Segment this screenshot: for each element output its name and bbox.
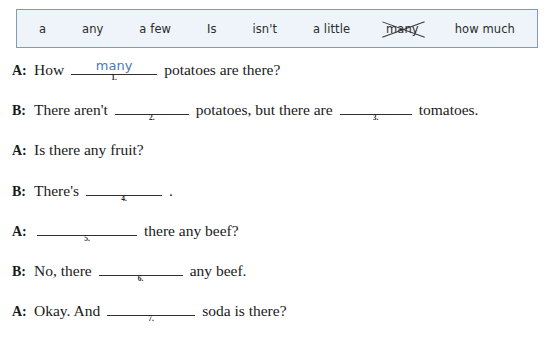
line-text-after: .	[165, 182, 173, 200]
blank-number: 6.	[99, 274, 183, 283]
word-bank-label: a few	[139, 22, 171, 36]
line-text-before: Okay. And	[34, 302, 104, 320]
line-text-after: there any beef?	[140, 222, 239, 240]
word-bank-label: a little	[313, 22, 350, 36]
word-bank-item-many[interactable]: many	[386, 22, 419, 36]
speaker-label: B:	[12, 264, 34, 280]
line-text-after: soda is there?	[198, 302, 286, 320]
handwritten-answer: many	[71, 58, 157, 73]
line-text-after: potatoes are there?	[160, 61, 280, 79]
word-bank-item-isnt[interactable]: isn't	[252, 22, 277, 36]
answer-blank-6[interactable]: 6.	[99, 261, 183, 276]
speaker-label: A:	[12, 304, 34, 320]
answer-blank-5[interactable]: 5.	[37, 221, 137, 236]
answer-blank-4[interactable]: 4.	[86, 181, 162, 196]
dialogue-line-5: A: 5. there any beef?	[12, 221, 548, 240]
blank-number: 7.	[107, 314, 195, 323]
word-bank-label: Is	[207, 22, 217, 36]
answer-blank-2[interactable]: 2.	[115, 100, 189, 115]
line-text-before: There's	[34, 182, 83, 200]
line-text-before: Is there any fruit?	[34, 141, 148, 159]
word-bank-label: any	[82, 22, 103, 36]
answer-blank-1[interactable]: many 1.	[71, 60, 157, 75]
speaker-label: A:	[12, 143, 34, 159]
word-bank-label: isn't	[252, 22, 277, 36]
speaker-label: B:	[12, 184, 34, 200]
blank-number: 2.	[115, 113, 189, 122]
word-bank-item-a-few[interactable]: a few	[139, 22, 171, 36]
dialogue-line-7: A: Okay. And 7. soda is there?	[12, 301, 548, 320]
answer-blank-7[interactable]: 7.	[107, 301, 195, 316]
word-bank-item-a[interactable]: a	[39, 22, 46, 36]
line-text-before: There aren't	[34, 101, 112, 119]
dialogue-line-6: B: No, there 6. any beef.	[12, 261, 548, 280]
dialogue-line-2: B: There aren't 2. potatoes, but there a…	[12, 100, 548, 119]
speaker-label: B:	[12, 103, 34, 119]
word-bank-label: how much	[455, 22, 515, 36]
line-text-before: No, there	[34, 262, 96, 280]
word-bank-item-a-little[interactable]: a little	[313, 22, 350, 36]
blank-number: 5.	[37, 234, 137, 243]
line-text-after: tomatoes.	[415, 101, 479, 119]
word-bank-box: a any a few Is isn't a little many how m…	[16, 9, 538, 48]
word-bank-label: a	[39, 22, 46, 36]
speaker-label: A:	[12, 224, 34, 240]
word-bank-item-is[interactable]: Is	[207, 22, 217, 36]
speaker-label: A:	[12, 63, 34, 79]
line-text-after: any beef.	[186, 262, 247, 280]
dialogue-line-1: A: How many 1. potatoes are there?	[12, 60, 548, 79]
answer-blank-3[interactable]: 3.	[340, 100, 412, 115]
blank-number: 1.	[71, 73, 157, 82]
line-text-before: How	[34, 61, 68, 79]
blank-number: 3.	[340, 113, 412, 122]
word-bank-item-any[interactable]: any	[82, 22, 103, 36]
dialogue-line-4: B: There's 4. .	[12, 181, 548, 200]
line-text-middle: potatoes, but there are	[192, 101, 337, 119]
blank-number: 4.	[86, 194, 162, 203]
word-bank-item-how-much[interactable]: how much	[455, 22, 515, 36]
dialogue-line-3: A: Is there any fruit?	[12, 141, 548, 159]
